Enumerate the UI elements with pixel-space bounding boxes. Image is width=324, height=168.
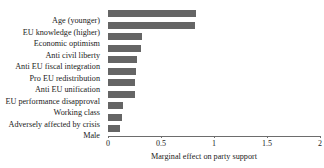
bar (108, 22, 195, 29)
category-axis-labels: Age (younger) EU knowledge (higher) Econ… (0, 8, 104, 136)
category-label: Adversely affected by crisis (0, 120, 100, 129)
bar (108, 10, 196, 17)
bar (108, 56, 137, 63)
x-tick-mark (267, 136, 268, 138)
bar (108, 33, 142, 40)
category-label: EU performance disapproval (0, 97, 100, 106)
x-tick-mark (320, 136, 321, 138)
horizontal-bar-chart: Age (younger) EU knowledge (higher) Econ… (0, 0, 324, 168)
x-tick-label: 1.5 (262, 139, 272, 148)
x-tick-label: 1 (212, 139, 216, 148)
category-label: EU knowledge (higher) (0, 28, 100, 37)
bar (108, 114, 122, 121)
category-label: Working class (0, 108, 100, 117)
x-axis-title: Marginal effect on party support (0, 152, 324, 161)
bar (108, 125, 120, 132)
category-label: Male (0, 131, 100, 140)
bar (108, 45, 141, 52)
category-label: Anti civil liberty (0, 51, 100, 60)
x-tick-label: 2 (318, 139, 322, 148)
x-tick-mark (161, 136, 162, 138)
category-label: Economic optimism (0, 39, 100, 48)
x-tick-mark (108, 136, 109, 138)
bar (108, 79, 135, 86)
x-tick-mark (214, 136, 215, 138)
x-tick-label: 0 (106, 139, 110, 148)
bar (108, 68, 136, 75)
plot-area (108, 8, 320, 136)
category-label: Anti EU fiscal integration (0, 62, 100, 71)
category-label: Anti EU unification (0, 85, 100, 94)
category-label: Pro EU redistribution (0, 74, 100, 83)
bar (108, 91, 135, 98)
x-axis-title-text: Marginal effect on party support (67, 152, 257, 161)
category-label: Age (younger) (0, 16, 100, 25)
x-tick-label: 0.5 (156, 139, 166, 148)
bar (108, 102, 123, 109)
